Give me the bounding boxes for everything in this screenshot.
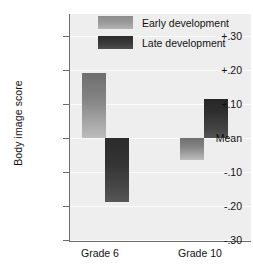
tick-mark-0.10 [63,104,69,105]
tick-mark--0.10 [63,172,69,173]
x-label-grade-10: Grade 10 [168,247,232,259]
tick-label--0.30: -.30 [191,234,253,246]
tick-label--0.20: -.20 [191,200,253,212]
legend-swatch-late-icon [98,36,133,49]
tick-mark--0.20 [63,206,69,207]
bar-grade6-late [105,138,129,202]
y-axis-line [69,14,70,242]
tick-mark--0.30 [63,240,69,241]
bar-grade6-early [82,73,106,138]
legend-item-late: Late development [98,34,229,51]
legend-item-early: Early development [98,14,229,31]
tick-label-mean: Mean [191,132,253,144]
y-axis-title: Body image score [12,53,24,193]
legend: Early development Late development [98,14,229,54]
legend-label-late: Late development [142,37,225,49]
tick-label-0.10: +.10 [191,98,253,110]
tick-mark-0.30 [63,36,69,37]
tick-mark-mean [63,138,69,139]
tick-label--0.10: -.10 [191,166,253,178]
legend-label-early: Early development [142,17,229,29]
x-label-grade-6: Grade 6 [70,247,130,259]
legend-swatch-early-icon [98,16,133,29]
tick-label-0.20: +.20 [191,64,253,76]
tick-mark-0.20 [63,70,69,71]
body-image-score-chart: Body image score +.30 +.20 +.10 Mean -.1… [0,0,253,280]
